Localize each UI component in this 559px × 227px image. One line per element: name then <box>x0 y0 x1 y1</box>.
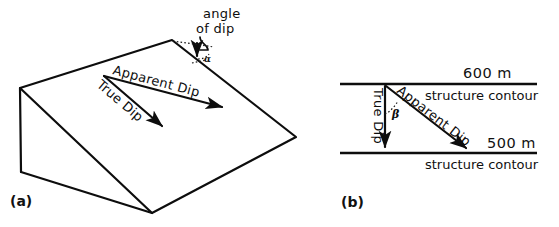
block-top-surface <box>20 40 296 213</box>
panel-b-true-dip-label: True Dip <box>371 87 386 144</box>
block-bottom-edge <box>21 172 152 213</box>
lower-elevation-label: 500 m <box>487 135 536 151</box>
panel-b-tag: (b) <box>341 194 364 210</box>
upper-structure-contour-label: structure contour <box>425 88 539 103</box>
panel-a-group: Apparent Dip True Dip angle of dip α (a) <box>10 6 296 213</box>
lower-structure-contour-label: structure contour <box>425 157 539 172</box>
angle-of-dip-label-line1: angle <box>203 6 241 21</box>
panel-b-group: 600 m structure contour 500 m structure … <box>340 65 539 210</box>
panel-a-tag: (a) <box>10 193 32 209</box>
beta-symbol: β <box>391 108 400 121</box>
angle-callout-leader <box>200 37 208 50</box>
angle-of-dip-label-line2: of dip <box>196 21 235 36</box>
diagram-canvas: Apparent Dip True Dip angle of dip α (a) <box>0 0 559 227</box>
block-left-edge <box>20 88 21 172</box>
upper-elevation-label: 600 m <box>463 65 512 81</box>
figure-container: Apparent Dip True Dip angle of dip α (a) <box>0 0 559 227</box>
alpha-symbol: α <box>204 54 211 64</box>
